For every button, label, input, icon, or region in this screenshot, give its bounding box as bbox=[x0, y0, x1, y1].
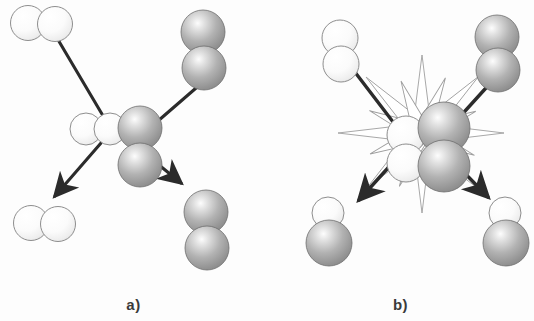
mixed-diatomic-product bbox=[306, 197, 352, 266]
white-diatomic-reactant bbox=[11, 6, 73, 42]
panel-a-label: a) bbox=[0, 296, 267, 313]
atom-dark bbox=[483, 220, 529, 266]
gray-diatomic-product bbox=[184, 190, 229, 270]
atom-light bbox=[41, 207, 76, 242]
panel-a: a) bbox=[0, 0, 267, 321]
white-diatomic-product bbox=[14, 206, 76, 242]
panel-a-stage bbox=[0, 0, 267, 321]
atom-dark bbox=[476, 48, 520, 92]
panel-b-stage bbox=[267, 0, 534, 321]
atom-dark bbox=[306, 220, 352, 266]
collision-complex bbox=[70, 106, 162, 187]
atom-light bbox=[38, 7, 73, 42]
gray-diatomic-reactant bbox=[181, 10, 226, 90]
atom-dark bbox=[185, 226, 229, 270]
panel-b-label: b) bbox=[267, 296, 534, 313]
panel-b-artwork bbox=[267, 0, 534, 321]
gray-diatomic-reactant bbox=[475, 15, 520, 92]
atom-light bbox=[323, 46, 359, 82]
mixed-diatomic-product bbox=[483, 197, 529, 266]
panel-a-artwork bbox=[0, 0, 267, 321]
collision-figure: a) bbox=[0, 0, 534, 321]
outbound-arrow-left bbox=[55, 143, 101, 196]
atom-dark bbox=[118, 143, 162, 187]
white-diatomic-reactant bbox=[322, 20, 359, 82]
atom-dark bbox=[182, 46, 226, 90]
atom-dark bbox=[418, 140, 470, 192]
panel-b: b) bbox=[267, 0, 534, 321]
